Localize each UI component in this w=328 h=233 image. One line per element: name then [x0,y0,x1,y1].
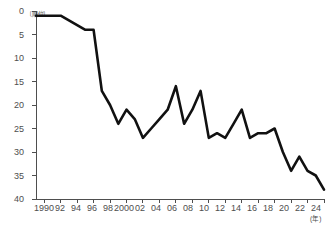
rank-line-chart: 〔順位〕 0 5 10 15 20 25 30 35 40 1990 92 94… [0,0,328,233]
plot-area [0,0,328,233]
x-axis-ticks [44,199,324,203]
y-axis-ticks [32,11,36,199]
series-line-0 [36,16,324,190]
data-series-group [36,16,324,190]
